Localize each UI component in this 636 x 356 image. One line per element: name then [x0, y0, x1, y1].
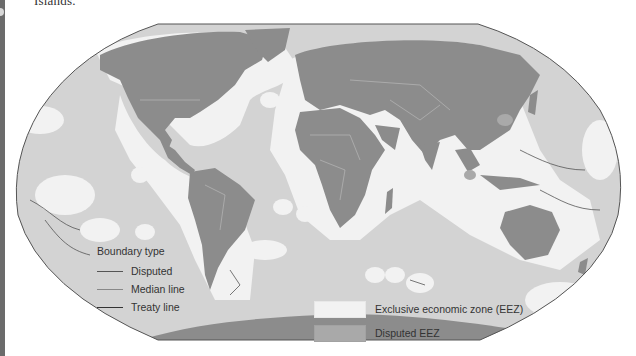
legend-label: Disputed: [131, 265, 172, 277]
treaty-line-icon: [97, 307, 123, 308]
disputed-line-icon: [97, 271, 123, 272]
legend-label: Exclusive economic zone (EEZ): [375, 303, 523, 315]
legend-label: Disputed EEZ: [375, 327, 440, 339]
boundary-legend: Boundary type Disputed Median line Treat…: [97, 245, 185, 316]
median-line-icon: [97, 289, 123, 290]
legend-label: Median line: [131, 283, 185, 295]
zone-legend: Exclusive economic zone (EEZ) Disputed E…: [314, 297, 523, 345]
eez-swatch-icon: [314, 301, 366, 318]
legend-item-eez: Exclusive economic zone (EEZ): [314, 297, 523, 321]
legend-label: Treaty line: [131, 301, 180, 313]
legend-title: Boundary type: [97, 245, 185, 257]
legend-item-disputed-eez: Disputed EEZ: [314, 321, 523, 345]
legend-item-disputed: Disputed: [97, 262, 185, 280]
disputed-eez-swatch-icon: [314, 325, 366, 342]
legend-item-median: Median line: [97, 280, 185, 298]
legend-item-treaty: Treaty line: [97, 298, 185, 316]
